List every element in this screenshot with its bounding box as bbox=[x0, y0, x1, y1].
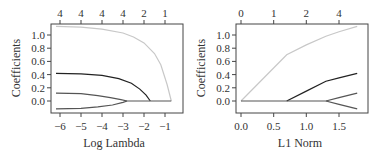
right-top-axis bbox=[241, 20, 339, 24]
right-x-tick: 1.5 bbox=[332, 120, 346, 132]
left-y-tick: 0.8 bbox=[31, 42, 45, 54]
left-x-tick: −6 bbox=[54, 120, 66, 132]
left-curve-coef1 bbox=[56, 26, 171, 101]
right-curve-coef1 bbox=[241, 26, 357, 101]
left-top-tick: 4 bbox=[78, 7, 84, 19]
right-curves bbox=[241, 26, 357, 109]
right-y-tick: 0.8 bbox=[216, 42, 230, 54]
left-x-tick: −4 bbox=[96, 120, 108, 132]
left-x-tick: −1 bbox=[159, 120, 171, 132]
figure: 0.0 0.2 0.4 0.6 0.8 1.0 Coefficients −6 … bbox=[0, 0, 370, 155]
right-y-axis-title: Coefficients bbox=[194, 38, 208, 97]
left-x-tick: −2 bbox=[138, 120, 150, 132]
right-y-tick: 0.4 bbox=[216, 69, 230, 81]
left-x-axis bbox=[60, 113, 165, 117]
right-x-axis-title: L1 Norm bbox=[278, 136, 323, 150]
left-top-tick: 4 bbox=[57, 7, 63, 19]
right-y-tick-labels: 0.0 0.2 0.4 0.6 0.8 1.0 bbox=[216, 29, 230, 107]
left-top-tick: 4 bbox=[99, 7, 105, 19]
right-x-tick: 0.5 bbox=[267, 120, 281, 132]
right-top-tick: 1 bbox=[271, 7, 277, 19]
left-y-axis-title: Coefficients bbox=[9, 38, 23, 97]
left-x-tick: −3 bbox=[117, 120, 129, 132]
right-y-tick: 0.6 bbox=[216, 55, 230, 67]
left-panel: 0.0 0.2 0.4 0.6 0.8 1.0 Coefficients −6 … bbox=[9, 7, 183, 150]
left-y-tick: 1.0 bbox=[31, 29, 45, 41]
left-y-tick: 0.4 bbox=[31, 69, 45, 81]
right-top-tick: 0 bbox=[238, 7, 244, 19]
left-y-tick-labels: 0.0 0.2 0.4 0.6 0.8 1.0 bbox=[31, 29, 45, 107]
left-x-tick-labels: −6 −5 −4 −3 −2 −1 bbox=[54, 120, 171, 132]
right-top-tick: 4 bbox=[336, 7, 342, 19]
right-top-tick: 2 bbox=[304, 7, 310, 19]
left-curves bbox=[56, 26, 171, 109]
left-curve-coef4 bbox=[56, 101, 127, 109]
left-y-tick: 0.2 bbox=[31, 82, 45, 94]
right-x-tick-labels: 0.0 0.5 1.0 1.5 bbox=[234, 120, 346, 132]
right-x-axis bbox=[241, 113, 339, 117]
right-y-tick: 0.2 bbox=[216, 82, 230, 94]
left-y-tick: 0.6 bbox=[31, 55, 45, 67]
right-y-tick: 1.0 bbox=[216, 29, 230, 41]
right-y-tick: 0.0 bbox=[216, 95, 230, 107]
left-top-tick: 4 bbox=[120, 7, 126, 19]
right-curve-coef2 bbox=[287, 73, 358, 101]
left-y-tick: 0.0 bbox=[31, 95, 45, 107]
right-x-tick: 0.0 bbox=[234, 120, 248, 132]
left-x-axis-title: Log Lambda bbox=[83, 136, 145, 150]
right-y-axis bbox=[232, 35, 236, 101]
left-plot-box bbox=[51, 24, 183, 113]
left-top-axis bbox=[60, 20, 165, 24]
right-plot-box bbox=[236, 24, 368, 113]
left-x-tick: −5 bbox=[75, 120, 87, 132]
left-top-tick: 1 bbox=[162, 7, 168, 19]
right-curve-coef4 bbox=[326, 101, 357, 109]
left-curve-coef3 bbox=[56, 93, 127, 101]
right-panel: 0.0 0.2 0.4 0.6 0.8 1.0 Coefficients 0.0… bbox=[194, 7, 368, 150]
right-x-tick: 1.0 bbox=[299, 120, 313, 132]
left-top-tick-labels: 4 4 4 4 2 1 bbox=[57, 7, 168, 19]
left-y-axis bbox=[47, 35, 51, 101]
left-top-tick: 2 bbox=[141, 7, 147, 19]
right-top-tick-labels: 0 1 2 4 bbox=[238, 7, 342, 19]
